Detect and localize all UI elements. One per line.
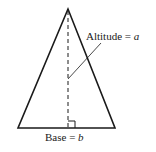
altitude-leader-line [68, 43, 101, 79]
altitude-label: Altitude = a [86, 30, 140, 42]
triangle-outline [18, 9, 115, 128]
right-angle-marker [68, 121, 75, 128]
base-label: Base = b [45, 131, 84, 143]
triangle-diagram: Altitude = a Base = b [0, 0, 156, 152]
